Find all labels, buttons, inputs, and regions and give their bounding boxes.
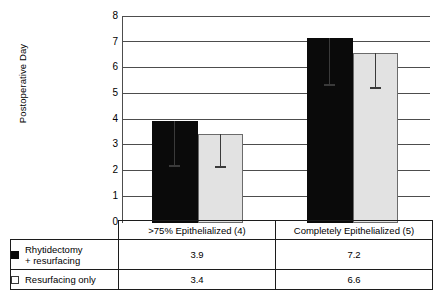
value-rhytidectomy-group2: 7.2	[276, 240, 433, 270]
errorbar-cap-resurfacing-group2	[370, 87, 381, 89]
legend-cell-rhytidectomy: Rhytidectomy + resurfacing	[11, 240, 119, 270]
errorbar-cap-rhytidectomy-group1	[169, 165, 180, 167]
bar-rhytidectomy-group1	[152, 121, 198, 223]
errorbar-cap-resurfacing-group1	[215, 166, 226, 168]
bar-rhytidectomy-group2	[307, 38, 353, 223]
value-resurfacing-group1: 3.4	[119, 270, 276, 290]
filled-square-icon	[11, 251, 19, 259]
table-header-row: >75% Epithelialized (4) Completely Epith…	[11, 221, 433, 240]
errorbar-rhytidectomy-group2	[329, 38, 330, 85]
bar-chart-figure: Postoperative Day 8 7 6 5 4 3 2 1 0	[0, 0, 445, 301]
legend-label-line1: Rhytidectomy	[25, 244, 83, 255]
legend-cell-resurfacing: Resurfacing only	[11, 270, 119, 290]
legend-label-line2: + resurfacing	[25, 255, 80, 266]
legend-data-table: >75% Epithelialized (4) Completely Epith…	[10, 220, 432, 290]
bars-layer	[0, 0, 445, 230]
header-group2: Completely Epithelialized (5)	[276, 221, 433, 240]
open-square-icon	[11, 276, 19, 284]
header-blank-cell	[11, 221, 119, 240]
legend-label-rhytidectomy: Rhytidectomy + resurfacing	[25, 244, 83, 266]
value-rhytidectomy-group1: 3.9	[119, 240, 276, 270]
table-row: Resurfacing only 3.4 6.6	[11, 270, 433, 290]
header-group1: >75% Epithelialized (4)	[119, 221, 276, 240]
errorbar-resurfacing-group2	[375, 53, 376, 88]
table-row: Rhytidectomy + resurfacing 3.9 7.2	[11, 240, 433, 270]
value-resurfacing-group2: 6.6	[276, 270, 433, 290]
errorbar-resurfacing-group1	[220, 134, 221, 167]
legend-label-resurfacing: Resurfacing only	[25, 274, 96, 285]
errorbar-cap-rhytidectomy-group2	[324, 84, 335, 86]
plot-area: Postoperative Day 8 7 6 5 4 3 2 1 0	[0, 0, 445, 230]
errorbar-rhytidectomy-group1	[174, 121, 175, 166]
